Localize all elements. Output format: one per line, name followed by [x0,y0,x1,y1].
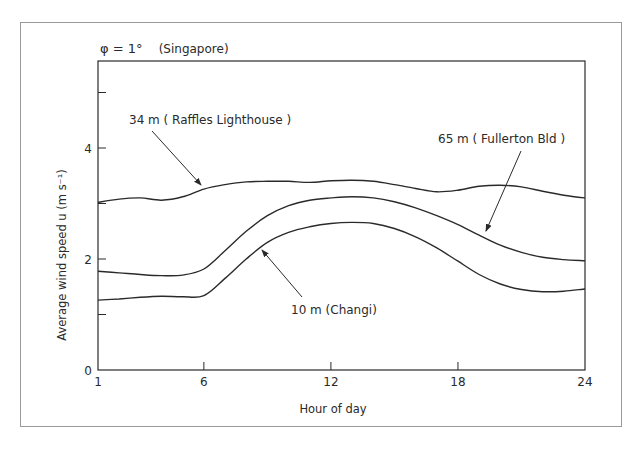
y-axis-ticks: 024 [84,93,106,379]
series-line [98,180,585,202]
y-tick-label: 4 [84,142,92,156]
x-tick-label: 6 [200,375,208,389]
annotation-34m: 34 m ( Raffles Lighthouse ) [129,113,291,127]
series-line [98,197,585,276]
x-axis-ticks: 16121824 [94,362,592,389]
annotation-10m: 10 m (Changi) [291,303,377,317]
x-tick-label: 24 [577,375,592,389]
y-tick-label: 2 [84,253,92,267]
arrow-10m [262,250,302,297]
x-tick-label: 1 [94,375,102,389]
wind-speed-chart: φ = 1° (Singapore) 024 16121824 Average … [0,0,634,456]
y-tick-label: 0 [84,364,92,378]
y-axis-label: Average wind speed u (m s⁻¹) [55,169,69,341]
x-tick-label: 12 [323,375,338,389]
x-tick-label: 18 [450,375,465,389]
arrow-65m [486,151,521,231]
annotation-65m: 65 m ( Fullerton Bld ) [438,132,565,146]
chart-title: φ = 1° (Singapore) [100,41,229,56]
plot-axes [98,61,585,370]
x-axis-label: Hour of day [299,402,366,416]
arrow-34m [152,131,201,185]
series-line [98,222,585,300]
series-lines [98,180,585,300]
